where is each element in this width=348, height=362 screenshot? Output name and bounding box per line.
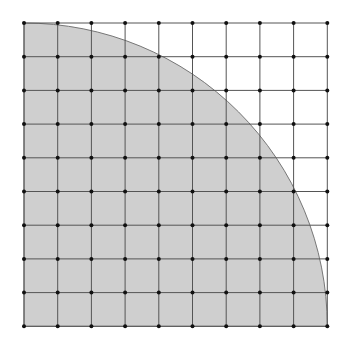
lattice-point [123,156,127,160]
lattice-point [224,55,228,59]
lattice-point [325,257,329,261]
lattice-point [157,257,161,261]
lattice-point [22,190,26,194]
grid-diagram [0,0,348,362]
lattice-point [292,291,296,295]
lattice-point [123,88,127,92]
lattice-point [191,190,195,194]
lattice-point [56,257,60,261]
quarter-circle-region [24,23,327,326]
lattice-point [123,55,127,59]
lattice-point [258,88,262,92]
lattice-point [224,190,228,194]
lattice-point [22,156,26,160]
lattice-point [325,122,329,126]
lattice-point [191,55,195,59]
lattice-point [224,21,228,25]
lattice-point [22,291,26,295]
lattice-point [292,324,296,328]
lattice-point [258,156,262,160]
lattice-point [89,257,93,261]
lattice-point [258,122,262,126]
lattice-point [123,21,127,25]
lattice-point [157,291,161,295]
lattice-point [325,55,329,59]
lattice-point [224,223,228,227]
lattice-point [325,291,329,295]
lattice-point [157,190,161,194]
lattice-point [89,324,93,328]
lattice-point [157,324,161,328]
lattice-point [191,122,195,126]
lattice-point [89,291,93,295]
lattice-point [89,156,93,160]
lattice-point [56,291,60,295]
lattice-point [258,324,262,328]
lattice-point [89,190,93,194]
lattice-point [191,88,195,92]
lattice-point [292,55,296,59]
lattice-point [258,21,262,25]
lattice-point [292,156,296,160]
lattice-point [89,88,93,92]
lattice-point [56,156,60,160]
lattice-point [224,324,228,328]
lattice-point [258,55,262,59]
lattice-point [89,21,93,25]
lattice-point [191,291,195,295]
lattice-point [123,257,127,261]
lattice-point [56,88,60,92]
lattice-point [224,88,228,92]
lattice-point [123,324,127,328]
lattice-point [258,223,262,227]
lattice-point [56,223,60,227]
lattice-point [22,88,26,92]
lattice-point [325,324,329,328]
lattice-point [157,88,161,92]
lattice-point [157,223,161,227]
lattice-point [325,21,329,25]
lattice-point [157,122,161,126]
lattice-point [22,21,26,25]
lattice-point [258,291,262,295]
lattice-point [258,257,262,261]
lattice-point [56,190,60,194]
lattice-point [325,88,329,92]
lattice-point [224,291,228,295]
lattice-point [56,324,60,328]
lattice-point [22,122,26,126]
lattice-point [325,223,329,227]
lattice-point [191,223,195,227]
lattice-point [157,55,161,59]
lattice-point [292,122,296,126]
lattice-point [56,21,60,25]
lattice-point [22,55,26,59]
lattice-point [89,122,93,126]
lattice-point [22,223,26,227]
lattice-point [292,190,296,194]
lattice-point [89,223,93,227]
lattice-point [258,190,262,194]
lattice-point [123,122,127,126]
lattice-point [191,156,195,160]
lattice-point [224,156,228,160]
lattice-point [56,122,60,126]
lattice-point [157,156,161,160]
lattice-point [325,156,329,160]
lattice-point [292,257,296,261]
lattice-point [191,21,195,25]
lattice-point [22,257,26,261]
lattice-point [56,55,60,59]
lattice-point [191,257,195,261]
lattice-point [123,190,127,194]
lattice-point [224,122,228,126]
lattice-point [22,324,26,328]
lattice-point [292,88,296,92]
lattice-point [224,257,228,261]
lattice-point [123,223,127,227]
lattice-point [325,190,329,194]
lattice-point [157,21,161,25]
lattice-point [123,291,127,295]
lattice-point [89,55,93,59]
lattice-point [292,21,296,25]
